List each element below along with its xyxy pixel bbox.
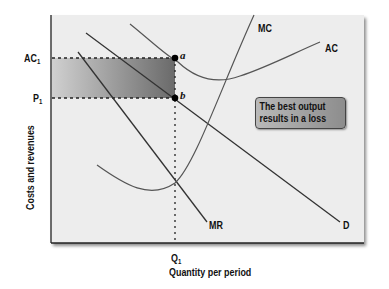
ac-label: AC xyxy=(325,42,338,54)
x-axis-label: Quantity per period xyxy=(169,266,251,278)
callout-line-2: results in a loss xyxy=(256,113,334,125)
y-tick-p1: P1 xyxy=(33,92,42,105)
point-a xyxy=(172,55,179,62)
point-b xyxy=(172,95,179,102)
y-axis-label: Costs and revenues xyxy=(24,125,36,210)
d-label: D xyxy=(343,219,349,231)
loss-callout: The best output results in a loss xyxy=(255,97,346,129)
x-tick-q1: Q1 xyxy=(171,252,181,265)
loss-area xyxy=(52,58,175,98)
y-tick-ac1: AC1 xyxy=(24,52,40,65)
marginal-cost-curve xyxy=(97,15,254,190)
mc-label: MC xyxy=(258,22,272,34)
point-b-label: b xyxy=(180,89,186,101)
mr-label: MR xyxy=(209,219,223,231)
callout-line-1: The best output xyxy=(256,98,334,113)
point-a-label: a xyxy=(180,49,186,61)
